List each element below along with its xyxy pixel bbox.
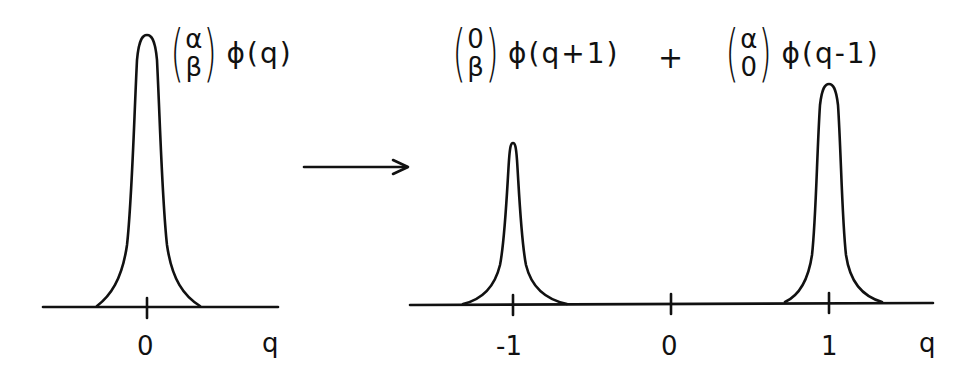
vector-top: α (740, 25, 757, 53)
left-paren: ( (452, 22, 465, 84)
vector-bottom: β (467, 53, 484, 81)
spinor-vector: α 0 (740, 25, 757, 81)
left-paren: ( (170, 22, 183, 84)
diagram-canvas: 0 q ( α β ) ϕ(q) ( 0 β ) ϕ(q+1) + ( α 0 … (0, 0, 972, 377)
right-paren: ) (485, 22, 498, 84)
spinor-vector: α β (185, 25, 202, 81)
right-tick-label-0: 0 (661, 333, 678, 359)
left-paren: ( (725, 22, 738, 84)
left-expression: ( α β ) ϕ(q) (165, 22, 293, 84)
left-tick-label-0: 0 (137, 333, 154, 359)
right-axis-label: q (919, 330, 936, 356)
wavefunction: ϕ(q+1) (508, 37, 619, 70)
vector-top: α (185, 25, 202, 53)
right-tick-label-1: 1 (821, 333, 838, 359)
peak-minus1-curve (463, 143, 567, 304)
peak-plus1-curve (785, 84, 882, 302)
wavefunction: ϕ(q-1) (782, 37, 880, 70)
term1-expression: ( 0 β ) ϕ(q+1) (447, 22, 619, 84)
right-paren: ) (204, 22, 217, 84)
term2-expression: ( α 0 ) ϕ(q-1) (720, 22, 880, 84)
vector-bottom: 0 (741, 53, 758, 81)
right-tick-label-minus1: -1 (496, 333, 522, 359)
left-axis-label: q (262, 330, 279, 356)
plus-operator: + (658, 40, 683, 75)
wavefunction: ϕ(q) (227, 37, 293, 70)
vector-top: 0 (467, 25, 484, 53)
right-paren: ) (759, 22, 772, 84)
spinor-vector: 0 β (467, 25, 484, 81)
vector-bottom: β (185, 53, 202, 81)
